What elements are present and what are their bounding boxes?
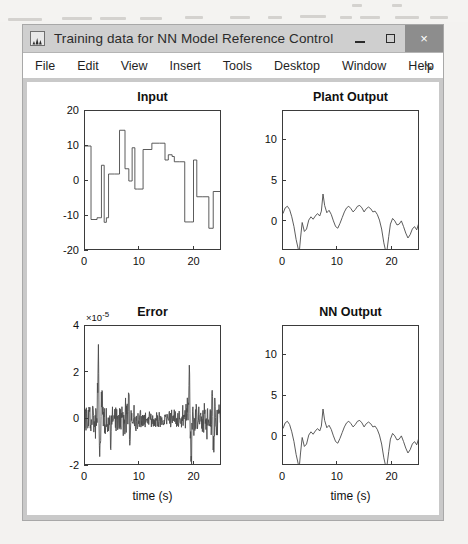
menu-item-view[interactable]: View [110,59,159,73]
matlab-figure-icon [30,31,45,46]
title-bar[interactable]: Training data for NN Model Reference Con… [23,25,443,52]
x-tick-mark [336,461,337,465]
menu-bar: FileEditViewInsertToolsDesktopWindowHelp… [23,52,443,79]
scan-artifacts [0,0,468,22]
minimize-icon [355,41,365,43]
y-tick-label: 10 [246,348,277,360]
menu-item-help[interactable]: Help [397,59,445,73]
x-tick-label: 0 [279,470,285,482]
menu-item-insert[interactable]: Insert [159,59,212,73]
window-controls: × [345,25,443,52]
y-tick-mark [282,435,286,436]
y-tick-label: 0 [246,430,277,442]
maximize-button[interactable] [375,25,405,52]
x-axis-label-nn_output: time (s) [282,489,419,503]
x-tick-mark [391,461,392,465]
y-tick-mark [282,354,286,355]
figure-window: Training data for NN Model Reference Con… [22,24,444,521]
close-button[interactable]: × [405,25,443,52]
minimize-button[interactable] [345,25,375,52]
menu-item-desktop[interactable]: Desktop [263,59,331,73]
plot-nn_output: NN Output105001020time (s) [27,82,439,515]
axes-nn_output[interactable] [282,325,419,465]
plot-title-nn_output: NN Output [282,305,419,319]
maximize-icon [386,34,395,43]
dock-arrow-icon[interactable]: ↘ [423,59,433,73]
x-tick-label: 20 [385,470,397,482]
menu-item-edit[interactable]: Edit [66,59,110,73]
menu-item-window[interactable]: Window [331,59,397,73]
figure-canvas: Input20100-10-2001020Plant Output1050010… [27,82,439,515]
x-tick-mark [282,461,283,465]
window-title: Training data for NN Model Reference Con… [54,31,333,46]
y-tick-label: 5 [246,389,277,401]
y-tick-mark [282,395,286,396]
x-tick-label: 10 [331,470,343,482]
menu-item-tools[interactable]: Tools [212,59,263,73]
menu-item-file[interactable]: File [23,59,66,73]
